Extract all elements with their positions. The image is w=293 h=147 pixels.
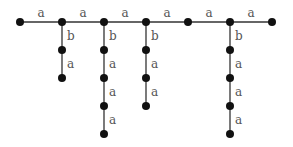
edge-label: a bbox=[79, 6, 86, 20]
edge-label: a bbox=[235, 57, 242, 71]
edge-label: a bbox=[247, 6, 254, 20]
node bbox=[100, 46, 108, 54]
node bbox=[16, 18, 24, 26]
node bbox=[58, 46, 66, 54]
node bbox=[58, 18, 66, 26]
edge-label: a bbox=[151, 57, 158, 71]
edge-label: a bbox=[121, 6, 128, 20]
node bbox=[100, 18, 108, 26]
edge-label: a bbox=[205, 6, 212, 20]
edge-label: a bbox=[235, 113, 242, 127]
node bbox=[184, 18, 192, 26]
edge-label: a bbox=[109, 85, 116, 99]
node bbox=[226, 46, 234, 54]
edge-label: b bbox=[151, 29, 159, 43]
edge-label: a bbox=[109, 113, 116, 127]
node bbox=[226, 102, 234, 110]
edge-label: a bbox=[235, 85, 242, 99]
edge-label: a bbox=[163, 6, 170, 20]
node bbox=[142, 102, 150, 110]
node bbox=[226, 130, 234, 138]
edge-label: b bbox=[67, 29, 75, 43]
node bbox=[142, 74, 150, 82]
edge-label: a bbox=[37, 6, 44, 20]
node bbox=[142, 18, 150, 26]
node bbox=[268, 18, 276, 26]
tree-diagram: aaaaaababaaabaabaaa bbox=[0, 0, 293, 147]
edge-label: a bbox=[67, 57, 74, 71]
edge-label: a bbox=[109, 57, 116, 71]
node bbox=[100, 102, 108, 110]
node bbox=[100, 130, 108, 138]
edge-label: b bbox=[235, 29, 243, 43]
edge-label: b bbox=[109, 29, 117, 43]
node bbox=[226, 18, 234, 26]
node bbox=[58, 74, 66, 82]
node bbox=[142, 46, 150, 54]
node bbox=[226, 74, 234, 82]
node bbox=[100, 74, 108, 82]
edge-label: a bbox=[151, 85, 158, 99]
